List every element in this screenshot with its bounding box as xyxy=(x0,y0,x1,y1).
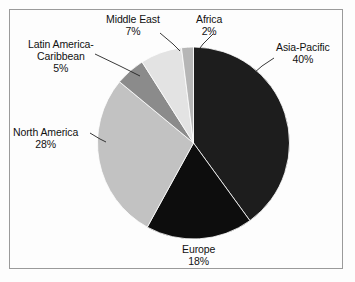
slice-label-africa-percent: 2% xyxy=(196,25,222,37)
slice-label-europe: Europe 18% xyxy=(182,243,215,267)
slice-label-latin-america-line1: Latin America- xyxy=(28,38,94,50)
slice-label-north-america: North America 28% xyxy=(13,126,78,150)
slice-label-africa-name: Africa xyxy=(196,13,222,25)
slice-label-europe-name: Europe xyxy=(182,243,215,255)
slice-label-middle-east-percent: 7% xyxy=(106,25,160,37)
slice-label-latin-america: Latin America- Caribbean 5% xyxy=(28,38,94,75)
slice-label-europe-percent: 18% xyxy=(182,255,215,267)
slice-label-latin-america-percent: 5% xyxy=(28,62,94,74)
slice-label-africa: Africa 2% xyxy=(196,13,222,37)
slice-label-north-america-name: North America xyxy=(13,126,78,138)
slice-label-asia-pacific-percent: 40% xyxy=(276,53,330,65)
leader-line-asia-pacific xyxy=(254,58,274,73)
leader-line-latin-america xyxy=(95,54,140,76)
slice-label-middle-east: Middle East 7% xyxy=(106,13,160,37)
slice-label-asia-pacific-name: Asia-Pacific xyxy=(276,41,330,53)
pie-chart-figure: Africa 2% Asia-Pacific 40% Europe 18% No… xyxy=(0,0,355,282)
pie-slice-group xyxy=(97,47,289,239)
leader-line-middle-east xyxy=(160,33,180,51)
slice-label-middle-east-name: Middle East xyxy=(106,13,160,25)
slice-label-latin-america-line2: Caribbean xyxy=(28,50,94,62)
slice-label-asia-pacific: Asia-Pacific 40% xyxy=(276,41,330,65)
slice-label-north-america-percent: 28% xyxy=(13,138,78,150)
